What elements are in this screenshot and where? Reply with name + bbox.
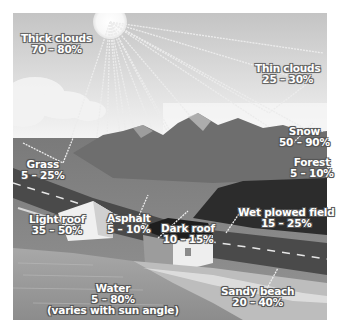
label-grass: Grass 5 – 25% — [21, 159, 65, 181]
label-wet-plowed-field: Wet plowed field 15 – 25% — [238, 207, 335, 229]
albedo-illustration: Thick clouds 70 – 80% Thin clouds 25 – 3… — [13, 13, 327, 320]
label-forest: Forest 5 – 10% — [290, 157, 334, 179]
label-sandy-beach: Sandy beach 20 – 40% — [221, 286, 294, 308]
label-asphalt: Asphalt 5 – 10% — [107, 213, 151, 235]
label-thin-clouds: Thin clouds 25 – 30% — [255, 63, 320, 85]
label-thick-clouds: Thick clouds 70 – 80% — [21, 33, 92, 55]
label-dark-roof: Dark roof 10 – 15% — [161, 223, 215, 245]
label-snow: Snow 50 – 90% — [279, 126, 330, 148]
label-light-roof: Light roof 35 – 50% — [29, 214, 85, 236]
label-water: Water 5 – 80% (varies with sun angle) — [47, 283, 179, 316]
